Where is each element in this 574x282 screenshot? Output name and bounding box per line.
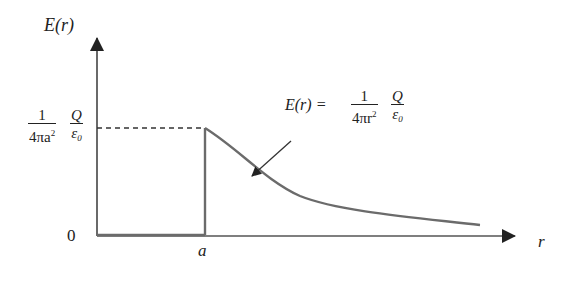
formula-numerator: 1 <box>360 88 370 104</box>
origin-label: 0 <box>67 226 76 246</box>
y-tick-exponent: 2 <box>51 128 56 138</box>
formula-charge: Q <box>391 88 404 104</box>
formula-pointer-arrow <box>252 141 291 176</box>
y-tick-charge: Q <box>70 107 83 123</box>
formula-denominator: 4πr <box>352 110 372 126</box>
y-tick-label: 1 4πa2 Q ε0 <box>28 107 98 147</box>
decay-curve <box>205 128 480 225</box>
y-tick-epsilon-sub: 0 <box>77 133 82 143</box>
formula-exponent: 2 <box>372 109 377 119</box>
y-tick-fraction-1: 1 4πa2 <box>28 107 56 145</box>
y-tick-fraction-2: Q ε0 <box>70 107 83 146</box>
formula-fraction-2: Q ε0 <box>391 88 404 127</box>
formula-lhs: E(r) = <box>285 96 326 114</box>
y-tick-denominator: 4πa <box>29 129 51 145</box>
formula-fraction-1: 1 4πr2 <box>351 88 378 126</box>
y-axis-label: E(r) <box>44 15 74 36</box>
x-axis-label: r <box>538 232 545 252</box>
y-tick-numerator: 1 <box>37 107 47 123</box>
x-tick-label-a: a <box>198 241 207 261</box>
formula-epsilon-sub: 0 <box>398 114 403 124</box>
